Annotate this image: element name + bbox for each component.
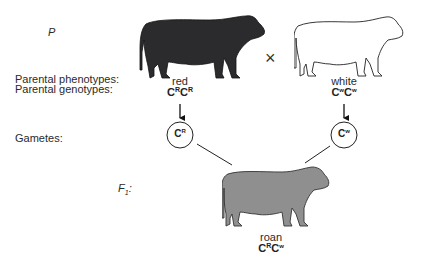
white-to-offspring-line xyxy=(305,146,330,163)
white-cow-body xyxy=(294,17,403,76)
red-to-offspring-line xyxy=(197,144,232,165)
red-genotype: CRCR xyxy=(167,86,193,98)
offspring-genotype: CRCw xyxy=(258,242,284,254)
white-genotype: CwCw xyxy=(331,86,356,98)
roan-cow-image xyxy=(222,164,330,234)
roan-cow-body xyxy=(222,167,329,226)
red-cow-image xyxy=(138,12,268,84)
red-cow-body xyxy=(140,16,265,78)
white-gamete: Cw xyxy=(338,128,350,139)
white-cow-image xyxy=(294,12,404,84)
cross-symbol: × xyxy=(265,48,276,69)
red-gamete: CR xyxy=(174,128,186,139)
